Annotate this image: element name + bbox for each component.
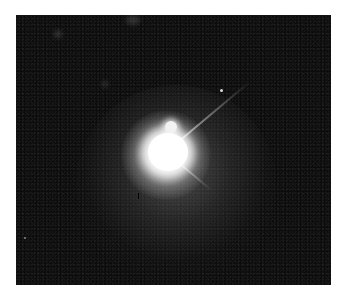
faint-source bbox=[102, 81, 108, 87]
faint-source bbox=[126, 15, 140, 25]
dark-artifact bbox=[138, 193, 139, 199]
bright-knot bbox=[165, 121, 177, 133]
faint-source bbox=[54, 30, 62, 38]
point-star bbox=[220, 89, 223, 92]
astronomical-image bbox=[16, 15, 331, 285]
point-star bbox=[24, 237, 26, 239]
bright-core bbox=[148, 133, 188, 171]
